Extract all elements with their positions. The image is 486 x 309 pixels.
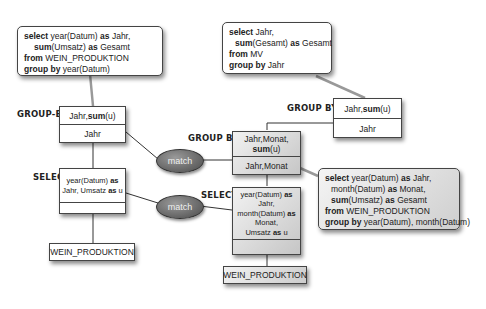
- select-projection: year(Datum) as Jahr, month(Datum) as Mon…: [233, 188, 300, 240]
- select-node-mv[interactable]: year(Datum) as Jahr, month(Datum) as Mon…: [232, 187, 301, 255]
- sql-line: select Jahr,: [229, 27, 325, 38]
- match-node-groupby[interactable]: match: [156, 149, 204, 173]
- groupby-node-right[interactable]: Jahr,sum(u) Jahr: [333, 98, 402, 138]
- sql-line: select year(Datum) as Jahr,: [24, 31, 156, 42]
- groupby-node-mv[interactable]: Jahr,Monat, sum(u) Jahr,Monat: [232, 131, 301, 175]
- select-predicate: [233, 240, 300, 254]
- select-predicate: [60, 203, 125, 213]
- sql-line: month(Datum) as Monat,: [325, 184, 453, 195]
- sql-line: group by Jahr: [229, 60, 325, 71]
- sql-line: from WEIN_PRODUKTION: [325, 206, 453, 217]
- sql-line: group by year(Datum), month(Datum): [325, 217, 453, 228]
- table-wein-produktion-mv[interactable]: WEIN_PRODUKTION: [223, 266, 307, 284]
- sql-line: from MV: [229, 49, 325, 60]
- groupby-keys: Jahr: [334, 119, 401, 138]
- groupby-label-right: GROUP BY: [287, 103, 338, 113]
- groupby-node-left[interactable]: Jahr,sum(u) Jahr: [59, 106, 126, 143]
- match-node-select[interactable]: match: [156, 195, 204, 219]
- query-note-left: select year(Datum) as Jahr, sum(Umsatz) …: [17, 26, 163, 76]
- groupby-keys: Jahr: [60, 125, 125, 143]
- sql-line: select year(Datum) as Jahr,: [325, 173, 453, 184]
- query-note-mv: select year(Datum) as Jahr, month(Datum)…: [318, 168, 460, 230]
- groupby-aggregate: Jahr,sum(u): [60, 107, 125, 125]
- sql-line: from WEIN_PRODUKTION: [24, 53, 156, 64]
- select-projection: year(Datum) as Jahr, Umsatz as u: [60, 169, 125, 203]
- groupby-keys: Jahr,Monat: [233, 157, 300, 174]
- query-note-right: select Jahr, sum(Gesamt) as Gesamt from …: [222, 22, 332, 74]
- sql-line: sum(Umsatz) as Gesamt: [325, 195, 453, 206]
- sql-line: sum(Umsatz) as Gesamt: [24, 42, 156, 53]
- sql-line: sum(Gesamt) as Gesamt: [229, 38, 325, 49]
- groupby-aggregate: Jahr,sum(u): [334, 99, 401, 119]
- sql-line: group by year(Datum): [24, 64, 156, 75]
- select-node-left[interactable]: year(Datum) as Jahr, Umsatz as u: [59, 168, 126, 214]
- table-wein-produktion-left[interactable]: WEIN_PRODUKTION: [49, 243, 135, 261]
- groupby-aggregate: Jahr,Monat, sum(u): [233, 132, 300, 157]
